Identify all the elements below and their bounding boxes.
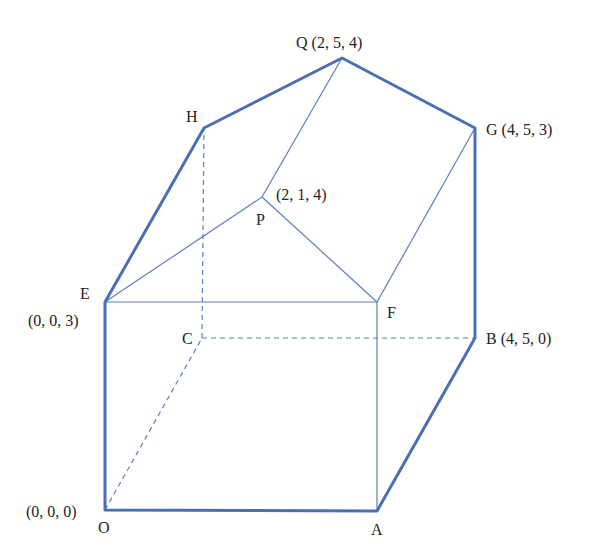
label-P: P bbox=[256, 211, 265, 228]
label-C: C bbox=[182, 330, 193, 347]
label-E-coords: (0, 0, 3) bbox=[28, 312, 79, 330]
label-H: H bbox=[186, 108, 198, 125]
label-P-coords: (2, 1, 4) bbox=[276, 186, 327, 204]
label-F: F bbox=[387, 304, 396, 321]
label-A: A bbox=[371, 521, 383, 538]
label-O-coords: (0, 0, 0) bbox=[26, 503, 77, 521]
label-G: G (4, 5, 3) bbox=[486, 121, 552, 139]
edge-C-H bbox=[202, 128, 204, 338]
edge-E-P bbox=[105, 197, 262, 302]
edge-P-F bbox=[262, 197, 377, 302]
label-O: O bbox=[98, 519, 110, 536]
outline-edges bbox=[105, 58, 475, 511]
edge-O-C bbox=[105, 338, 202, 510]
label-E: E bbox=[80, 285, 90, 302]
edge-F-G bbox=[377, 128, 475, 302]
label-Q: Q (2, 5, 4) bbox=[296, 34, 362, 52]
label-B: B (4, 5, 0) bbox=[486, 330, 551, 348]
solid-diagram: Q (2, 5, 4) G (4, 5, 3) H (2, 1, 4) P E … bbox=[0, 0, 606, 554]
